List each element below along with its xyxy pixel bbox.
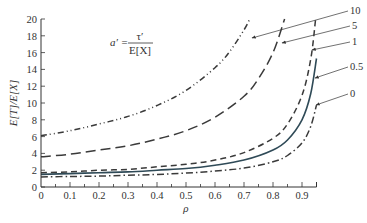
curve-label-5: 5 (352, 20, 357, 31)
x-tick-label: 0 (38, 190, 43, 201)
y-tick-label: 20 (27, 14, 38, 25)
x-tick-label: 0.4 (150, 190, 164, 201)
x-tick-label: 0.8 (266, 190, 279, 201)
curve-label-0: 0 (350, 88, 355, 99)
y-tick-label: 4 (32, 148, 38, 159)
curves (41, 19, 317, 177)
curve-5 (41, 19, 285, 157)
formula-lhs: a′ = (110, 36, 128, 48)
y-tick-label: 0 (32, 182, 37, 193)
x-tick-label: 0.2 (92, 190, 105, 201)
y-tick-label: 12 (27, 81, 38, 92)
y-tick-label: 10 (27, 98, 38, 109)
curve-10 (41, 19, 250, 136)
formula-annotation: a′ = τ′ E[X] (110, 30, 153, 56)
leader-line (252, 11, 348, 38)
leader-line (316, 94, 348, 105)
formula-denominator: E[X] (129, 44, 151, 56)
curve-label-1: 1 (352, 36, 357, 47)
curve-0-5 (41, 59, 317, 175)
curve-0 (41, 105, 317, 177)
x-tick-label: 0.6 (208, 190, 221, 201)
curve-label-10: 10 (350, 5, 361, 16)
x-axis-label: ρ (182, 202, 188, 214)
leader-line (312, 42, 350, 50)
y-tick-label: 6 (32, 132, 37, 143)
y-tick-label: 16 (27, 48, 38, 59)
curve-labels: 10510.50 (252, 5, 363, 105)
leader-line (282, 26, 350, 43)
y-tick-label: 8 (32, 115, 37, 126)
y-axis-label: E[T]/E[X] (7, 80, 19, 127)
x-tick-label: 0.9 (295, 190, 308, 201)
formula-numerator: τ′ (137, 30, 144, 42)
x-tick-label: 0.1 (63, 190, 76, 201)
chart: 0246810121416182000.10.20.30.40.50.60.70… (0, 0, 367, 223)
curve-label-0-5: 0.5 (350, 61, 363, 72)
x-tick-label: 0.3 (121, 190, 134, 201)
leader-line (315, 67, 348, 78)
y-tick-label: 14 (27, 64, 38, 75)
x-tick-label: 0.7 (237, 190, 250, 201)
x-tick-label: 0.5 (179, 190, 192, 201)
y-tick-label: 2 (32, 165, 37, 176)
y-tick-label: 18 (27, 31, 38, 42)
